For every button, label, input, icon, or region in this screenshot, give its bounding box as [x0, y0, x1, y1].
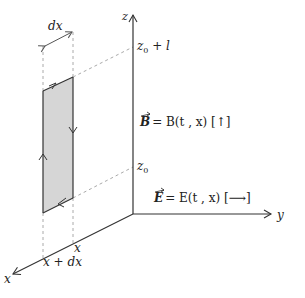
diagram-canvas: z y x z0 + l z0 x x + dx dx B= B(t , x) …	[0, 0, 305, 298]
dx-label: dx	[48, 19, 63, 33]
e-equation-rhs: = E(t , x) [⟶]	[165, 191, 250, 205]
b-vector-symbol: B	[139, 115, 150, 129]
e-vector-symbol: E	[153, 191, 164, 205]
dashed-bottom-projection	[73, 167, 133, 198]
svg-text:E= E(t , x) [⟶]: E= E(t , x) [⟶]	[153, 191, 251, 205]
magnetic-field-equation: B= B(t , x) [↑]	[139, 112, 230, 129]
x-far-label: x + dx	[43, 255, 82, 269]
x-near-label: x	[74, 241, 81, 255]
z-upper-label: z0 + l	[136, 39, 170, 55]
y-axis-label: y	[276, 208, 284, 222]
z-axis-label: z	[121, 10, 128, 23]
z-lower-label: z0	[136, 159, 148, 175]
dashed-top-projection	[73, 47, 133, 77]
x-axis-label: x	[4, 272, 11, 286]
b-equation-rhs: = B(t , x) [↑]	[152, 115, 230, 129]
electric-field-equation: E= E(t , x) [⟶]	[153, 188, 251, 205]
current-loop	[43, 77, 73, 213]
diagram-svg: z y x z0 + l z0 x x + dx dx B= B(t , x) …	[0, 0, 305, 298]
dx-width-arrow	[45, 32, 72, 46]
svg-text:B= B(t , x) [↑]: B= B(t , x) [↑]	[139, 115, 230, 129]
